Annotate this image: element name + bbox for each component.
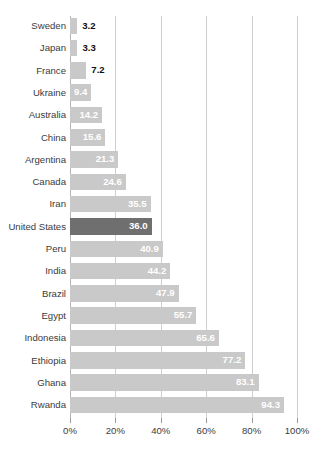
bar-value-label: 15.6: [83, 129, 102, 146]
bar: [70, 18, 77, 35]
category-label: Canada: [32, 172, 66, 194]
bar: 24.6: [70, 174, 126, 191]
bar: 44.2: [70, 263, 170, 280]
bar-value-label: 24.6: [103, 174, 122, 191]
category-label: Argentina: [25, 150, 66, 172]
bar-value-label: 3.2: [82, 18, 95, 35]
bar-row: Ghana83.1: [70, 373, 297, 395]
bar-value-label: 35.5: [128, 196, 147, 213]
category-label: India: [45, 261, 66, 283]
bar-row: Ukraine9.4: [70, 83, 297, 105]
bar-row: Rwanda94.3: [70, 395, 297, 417]
x-tick-label: 0%: [63, 425, 77, 436]
bar-value-label: 94.3: [261, 397, 280, 414]
bar-row: Peru40.9: [70, 239, 297, 261]
bar-chart: Sweden3.2Japan3.3France7.2Ukraine9.4Aust…: [0, 0, 313, 455]
gridline: [297, 16, 298, 418]
bar-value-label: 55.7: [174, 307, 193, 324]
bar: [70, 62, 86, 79]
bar-row: Canada24.6: [70, 172, 297, 194]
bar-row: Sweden3.2: [70, 16, 297, 38]
bar-value-label: 9.4: [74, 84, 87, 101]
bar: 15.6: [70, 129, 105, 146]
bar-value-label: 44.2: [148, 263, 167, 280]
bar-value-label: 7.2: [91, 62, 104, 79]
category-label: Egypt: [41, 306, 66, 328]
bar: 83.1: [70, 374, 259, 391]
category-label: Japan: [40, 38, 66, 60]
category-label: China: [41, 128, 66, 150]
bar-row: Indonesia65.6: [70, 328, 297, 350]
bar: 14.2: [70, 107, 102, 124]
category-label: Australia: [29, 105, 66, 127]
bar-value-label: 14.2: [80, 107, 99, 124]
bar-row: Iran35.5: [70, 194, 297, 216]
bar-value-label: 3.3: [82, 40, 95, 57]
bar-row: France7.2: [70, 61, 297, 83]
x-tick-label: 20%: [106, 425, 125, 436]
plot-area: Sweden3.2Japan3.3France7.2Ukraine9.4Aust…: [70, 16, 297, 418]
x-tick-label: 80%: [242, 425, 261, 436]
x-tick-mark: [252, 418, 253, 423]
bar-row: Japan3.3: [70, 38, 297, 60]
bar-value-label: 83.1: [236, 374, 255, 391]
bar-value-label: 21.3: [96, 151, 115, 168]
x-tick-mark: [206, 418, 207, 423]
bar-value-label: 77.2: [223, 352, 242, 369]
category-label: Ghana: [37, 373, 66, 395]
category-label: Brazil: [42, 284, 66, 306]
category-label: Peru: [46, 239, 66, 261]
x-tick-label: 40%: [151, 425, 170, 436]
bar: 94.3: [70, 397, 284, 414]
bar: 77.2: [70, 352, 245, 369]
x-tick-mark: [161, 418, 162, 423]
category-label: Rwanda: [31, 395, 66, 417]
bar: [70, 40, 77, 57]
bar-row: United States36.0: [70, 217, 297, 239]
bar: 47.9: [70, 285, 179, 302]
category-label: Indonesia: [24, 328, 66, 350]
bar-value-label: 36.0: [129, 218, 148, 235]
category-label: France: [36, 61, 66, 83]
x-tick-label: 60%: [197, 425, 216, 436]
bar-row: Egypt55.7: [70, 306, 297, 328]
bar-highlighted: 36.0: [70, 218, 152, 235]
bar: 55.7: [70, 307, 196, 324]
bar-value-label: 40.9: [140, 241, 159, 258]
bar-rows: Sweden3.2Japan3.3France7.2Ukraine9.4Aust…: [70, 16, 297, 418]
category-label: Ukraine: [33, 83, 66, 105]
x-tick-label: 100%: [285, 425, 310, 436]
bar-row: Argentina21.3: [70, 150, 297, 172]
bar: 21.3: [70, 151, 118, 168]
x-tick-mark: [115, 418, 116, 423]
bar-row: China15.6: [70, 128, 297, 150]
bar-value-label: 47.9: [156, 285, 175, 302]
bar: 9.4: [70, 84, 91, 101]
bar-row: Brazil47.9: [70, 284, 297, 306]
bar: 35.5: [70, 196, 151, 213]
category-label: Ethiopia: [31, 351, 66, 373]
bar: 65.6: [70, 330, 219, 347]
category-label: United States: [8, 217, 66, 239]
x-tick-mark: [70, 418, 71, 423]
x-tick-mark: [297, 418, 298, 423]
bar-row: Ethiopia77.2: [70, 351, 297, 373]
bar-row: Australia14.2: [70, 105, 297, 127]
bar-row: India44.2: [70, 261, 297, 283]
category-label: Iran: [49, 194, 66, 216]
bar: 40.9: [70, 241, 163, 258]
category-label: Sweden: [31, 16, 66, 38]
x-axis: 0%20%40%60%80%100%: [70, 418, 297, 448]
bar-value-label: 65.6: [196, 330, 215, 347]
